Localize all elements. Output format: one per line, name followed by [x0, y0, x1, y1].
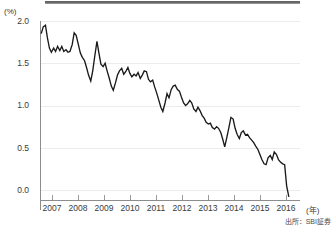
plot-area: [40, 13, 300, 200]
chart-figure: (%) (年) 2.0 1.5 1.0 0.5 0.0 2007 2008 20…: [0, 0, 331, 229]
y-tick-label-1-5: 1.5: [9, 59, 29, 68]
y-tick-label-2-0: 2.0: [9, 17, 29, 26]
y-axis-unit-label: (%): [4, 7, 16, 16]
source-note: 出所：SBI証券: [285, 218, 331, 226]
series-plot: [40, 13, 300, 213]
yield-line-path: [41, 25, 289, 197]
y-tick-label-0-5: 0.5: [9, 144, 29, 153]
top-divider-rule: [45, 1, 300, 4]
y-tick-label-0-0: 0.0: [9, 186, 29, 195]
x-axis-unit-label: (年): [306, 206, 319, 215]
y-tick-label-1-0: 1.0: [9, 101, 29, 110]
x-tick-label-2016: 2016: [271, 204, 301, 213]
